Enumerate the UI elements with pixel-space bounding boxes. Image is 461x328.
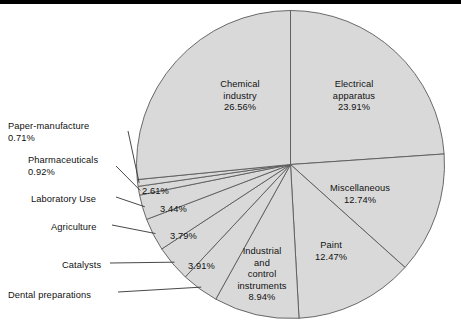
laboratory-use-callout-label: Laboratory Use xyxy=(31,194,96,206)
leader-line-catalysts xyxy=(110,262,174,263)
electrical-apparatus-slice-label: Electrical apparatus 23.91% xyxy=(333,79,375,114)
industrial-and-control-instruments-slice-label: Industrial and control instruments 8.94% xyxy=(237,246,286,304)
catalysts-value: 3.79% xyxy=(170,231,197,243)
pie-slice-chemical-industry[interactable] xyxy=(137,11,291,180)
leader-line-dental-preparations xyxy=(118,287,201,292)
dental-preparations-callout-label: Dental preparations xyxy=(8,290,91,302)
catalysts-callout-label: Catalysts xyxy=(62,260,101,272)
pharmaceuticals-callout-label: Pharmaceuticals 0.92% xyxy=(28,155,98,178)
paint-slice-label: Paint 12.47% xyxy=(315,240,347,263)
agriculture-callout-label: Agriculture xyxy=(51,222,97,234)
dental-preparations-value: 3.91% xyxy=(188,261,215,273)
laboratory-use-value: 2.61% xyxy=(142,186,169,198)
pie-chart-figure: Chemical industry 26.56%Electrical appar… xyxy=(0,0,461,328)
pie-slices-group xyxy=(137,10,445,318)
leader-line-agriculture xyxy=(112,225,155,234)
paper-manufacture-callout-label: Paper-manufacture 0.71% xyxy=(8,121,89,144)
chemical-industry-slice-label: Chemical industry 26.56% xyxy=(220,79,260,114)
miscellaneous-slice-label: Miscellaneous 12.74% xyxy=(330,183,390,206)
agriculture-value: 3.44% xyxy=(160,204,187,216)
